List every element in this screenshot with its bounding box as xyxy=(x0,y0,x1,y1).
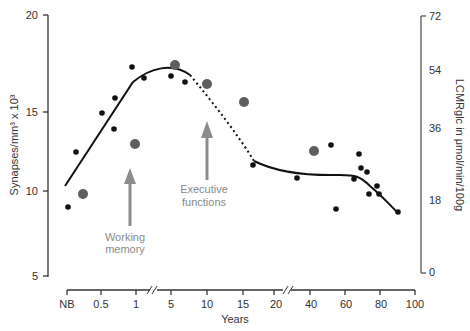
x-tick-100: 100 xyxy=(406,298,424,310)
executive-functions-label-1: Executive xyxy=(180,183,228,195)
x-tick-80: 80 xyxy=(375,298,387,310)
fit-curve xyxy=(65,68,398,213)
right-y-axis: 72 54 36 18 0 LCMRglc in μmol/min/100g xyxy=(421,10,466,278)
y-right-tick-18: 18 xyxy=(429,194,441,206)
working-memory-arrow-icon xyxy=(124,168,136,226)
small-dots-synapses xyxy=(65,64,401,215)
y-left-tick-10: 10 xyxy=(26,185,38,197)
y-right-tick-0: 0 xyxy=(429,266,435,278)
x-tick-40: 40 xyxy=(305,298,317,310)
x-axis-title: Years xyxy=(221,313,249,325)
y-left-axis-title: Synapses/mm³ x 10³ xyxy=(8,94,20,195)
y-left-tick-5: 5 xyxy=(32,270,38,282)
y-left-tick-20: 20 xyxy=(26,9,38,21)
executive-functions-label-2: functions xyxy=(182,196,227,208)
x-tick-10: 10 xyxy=(201,298,213,310)
x-tick-5: 5 xyxy=(168,298,174,310)
x-tick-nb: NB xyxy=(59,298,74,310)
y-right-axis-title: LCMRglc in μmol/min/100g xyxy=(454,79,466,211)
left-y-axis: 20 15 10 5 Synapses/mm³ x 10³ xyxy=(8,9,48,282)
x-tick-20: 20 xyxy=(270,298,282,310)
x-tick-15: 15 xyxy=(237,298,249,310)
executive-functions-arrow-icon xyxy=(201,121,213,180)
y-right-tick-72: 72 xyxy=(429,10,441,22)
chart: 20 15 10 5 Synapses/mm³ x 10³ 72 54 36 1… xyxy=(0,0,470,331)
y-left-tick-15: 15 xyxy=(26,106,38,118)
x-tick-1: 1 xyxy=(133,298,139,310)
x-tick-0-5: 0.5 xyxy=(93,298,108,310)
x-tick-60: 60 xyxy=(340,298,352,310)
y-right-tick-54: 54 xyxy=(429,64,441,76)
y-right-tick-36: 36 xyxy=(429,122,441,134)
working-memory-label-2: memory xyxy=(105,243,145,255)
working-memory-label-1: Working xyxy=(105,231,145,243)
x-axis: NB 0.5 1 5 10 15 20 40 60 80 100 Years xyxy=(59,286,424,325)
